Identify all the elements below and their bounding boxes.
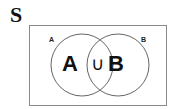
set-a-small-label: A xyxy=(49,36,54,43)
set-b-small-label: B xyxy=(141,36,146,43)
union-symbol: ∪ xyxy=(91,53,104,74)
set-a-big-label: A xyxy=(62,51,78,76)
venn-diagram: A B A ∪ B xyxy=(0,0,175,109)
set-b-big-label: B xyxy=(108,51,124,76)
